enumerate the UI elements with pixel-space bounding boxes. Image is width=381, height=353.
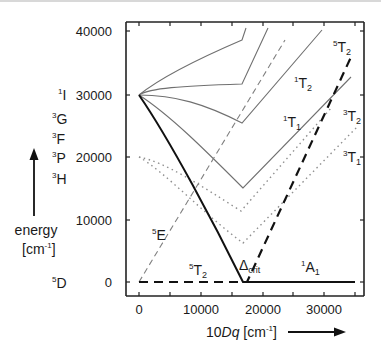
- x-ticks: [139, 22, 355, 296]
- curve-1A1: [139, 95, 355, 282]
- tanabe-sugano-chart: 40000 30000 20000 10000 0 0 10000 20000 …: [0, 0, 381, 353]
- label-1A1: 1A1: [301, 259, 320, 277]
- term-label-3G: 3G: [52, 111, 67, 127]
- y-tick-labels: 40000 30000 20000 10000 0: [76, 24, 112, 290]
- label-3T2: 3T2: [343, 108, 361, 126]
- label-5E: 5E: [152, 227, 166, 243]
- label-5T2-upper: 5T2: [333, 39, 351, 57]
- y-tick-label: 0: [105, 275, 112, 290]
- curve-labels: 5T2 1T2 1T1 3T2 3T1 5E 5T2 1A1 Δcrit: [152, 39, 361, 280]
- x-tick-label: 10000: [183, 302, 219, 317]
- term-label-3P: 3P: [52, 150, 66, 166]
- term-label-3F: 3F: [52, 131, 65, 147]
- x-tick-label: 30000: [306, 302, 342, 317]
- energy-unit-label: [cm-1]: [22, 241, 56, 257]
- x-tick-label: 20000: [245, 302, 281, 317]
- label-3T1: 3T1: [343, 149, 361, 167]
- label-delta-crit: Δcrit: [239, 257, 261, 275]
- right-arrow-icon: [334, 328, 346, 337]
- y-tick-label: 20000: [76, 150, 112, 165]
- label-1T1: 1T1: [283, 114, 301, 132]
- label-1T2: 1T2: [294, 75, 312, 93]
- term-label-1I: 1I: [58, 87, 66, 103]
- term-label-3H: 3H: [52, 171, 67, 187]
- term-label-5D: 5D: [52, 275, 67, 291]
- x-tick-labels: 0 10000 20000 30000: [135, 302, 342, 317]
- y-tick-label: 10000: [76, 213, 112, 228]
- energy-axis-label: energy [cm-1]: [15, 148, 58, 257]
- dq-label: 10Dq [cm-1]: [206, 324, 277, 340]
- dq-axis-label: 10Dq [cm-1]: [206, 324, 346, 340]
- energy-label: energy: [15, 222, 58, 238]
- plot-frame: [126, 22, 364, 296]
- curve-singlet-upper: [139, 28, 268, 95]
- curve-3T1: [139, 127, 357, 243]
- curve-5E: [139, 40, 285, 282]
- y-tick-label: 30000: [76, 88, 112, 103]
- label-5T2-lower: 5T2: [189, 262, 207, 280]
- up-arrow-icon: [30, 148, 39, 160]
- curve-1T1: [139, 77, 351, 188]
- x-tick-label: 0: [135, 302, 142, 317]
- free-ion-terms: 1I 3G 3F 3P 3H 5D: [52, 87, 67, 291]
- curves: [139, 28, 357, 282]
- y-tick-label: 40000: [76, 24, 112, 39]
- curve-5T2: [139, 57, 351, 282]
